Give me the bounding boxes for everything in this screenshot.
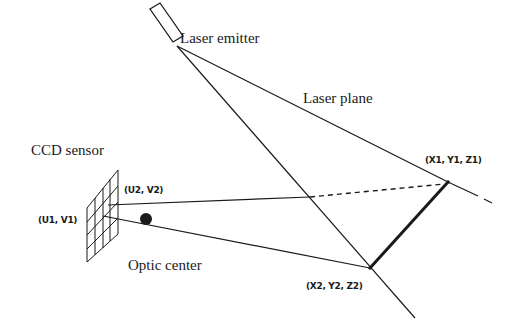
measured-segment <box>370 182 448 268</box>
ray-upper-dashed <box>310 184 444 197</box>
point-x2-marker <box>368 266 372 270</box>
x1y1z1-label: (X1, Y1, Z1) <box>425 156 482 165</box>
laser-plane-label: Laser plane <box>303 91 373 106</box>
laser-beam-upper <box>177 46 448 182</box>
x2y2z2-label: (X2, Y2, Z2) <box>306 282 363 291</box>
laser-beam-upper-dash <box>484 199 492 203</box>
diagram-canvas: Laser emitter Laser plane CCD sensor Opt… <box>0 0 516 334</box>
ccd-sensor-grid <box>87 170 118 262</box>
laser-emitter-label: Laser emitter <box>180 31 260 46</box>
laser-beam-lower <box>177 46 415 318</box>
ray-upper-solid <box>108 197 310 205</box>
u2v2-label: (U2, V2) <box>124 186 163 195</box>
laser-emitter-shape <box>150 3 183 42</box>
ccd-sensor-label: CCD sensor <box>31 143 104 158</box>
diagram-svg <box>0 0 516 334</box>
u1v1-label: (U1, V1) <box>38 216 77 225</box>
laser-beam-upper-extension <box>448 182 478 196</box>
optic-center-label: Optic center <box>128 258 202 273</box>
point-x1-marker <box>446 180 450 184</box>
optic-center-dot <box>140 213 152 225</box>
